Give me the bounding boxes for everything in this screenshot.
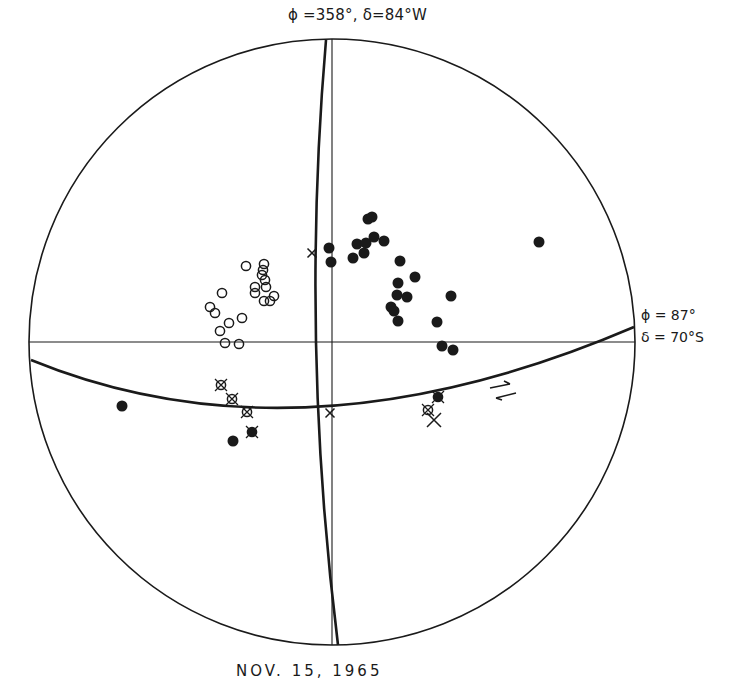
arrow-upper-icon (490, 381, 510, 388)
open-point-icon (250, 288, 259, 297)
filled-point-icon (392, 290, 403, 301)
open-point-icon (215, 326, 224, 335)
open-point-icon (234, 339, 243, 348)
right-pole-phi-label: ϕ = 87° (641, 307, 696, 323)
open-point-icon (241, 261, 250, 270)
filled-point-icon (326, 257, 337, 268)
stereonet-diagram (0, 0, 732, 695)
filled-point-icon (379, 236, 390, 247)
filled-point-icon (367, 212, 378, 223)
filled-point-icon (393, 316, 404, 327)
filled-point-icon (432, 317, 443, 328)
sense-arrows (490, 381, 516, 400)
date-caption: NOV. 15, 1965 (236, 662, 382, 680)
open-point-icon (224, 318, 233, 327)
open-point-icon (217, 288, 226, 297)
arrow-lower-icon (496, 393, 516, 400)
right-pole-delta-label: δ = 70°S (641, 329, 704, 345)
filled-point-icon (228, 436, 239, 447)
open-point-icon (210, 308, 219, 317)
filled-point-icon (395, 256, 406, 267)
filled-point-icon (534, 237, 545, 248)
filled-point-icon (348, 253, 359, 264)
filled-point-icon (389, 306, 400, 317)
crossed-filled-point-icon (246, 426, 258, 438)
filled-point-icon (448, 345, 459, 356)
filled-point-icon (393, 278, 404, 289)
filled-point-icon (402, 292, 413, 303)
top-pole-label: ϕ =358°, δ=84°W (288, 6, 427, 24)
filled-point-icon (446, 291, 457, 302)
filled-point-icon (117, 401, 128, 412)
crossed-point-icon (215, 379, 227, 391)
filled-point-icon (437, 341, 448, 352)
crossed-filled-point-icon (432, 391, 444, 403)
cross-point-icon (326, 409, 335, 418)
filled-point-icon (359, 248, 370, 259)
filled-point-icon (324, 243, 335, 254)
crossed-point-icon (226, 393, 238, 405)
net-frame (29, 39, 635, 645)
crossed-point-icon (241, 406, 253, 418)
open-point-icon (220, 338, 229, 347)
open-point-icon (237, 313, 246, 322)
filled-point-icon (369, 232, 380, 243)
open-point-icon (205, 302, 214, 311)
filled-point-icon (410, 272, 421, 283)
data-points (117, 212, 545, 447)
